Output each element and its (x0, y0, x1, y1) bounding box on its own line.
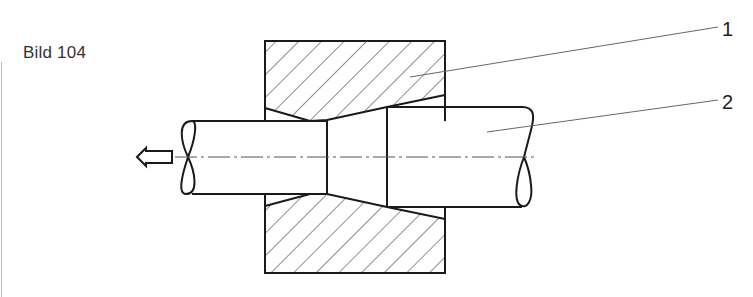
leader-line-1 (410, 27, 718, 77)
arrow-left-icon (137, 148, 172, 166)
label-2: 2 (722, 91, 733, 113)
die-top-section (265, 41, 445, 121)
wire-drawing-diagram: 1 2 (0, 0, 753, 297)
label-1: 1 (722, 18, 733, 40)
die-bottom-section (265, 194, 445, 273)
break-line-right (516, 157, 531, 206)
leader-line-2 (487, 100, 718, 132)
